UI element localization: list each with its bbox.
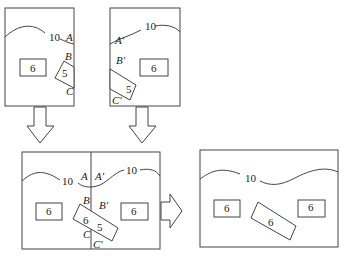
point-a: A — [80, 170, 88, 182]
point-c-prime: C' — [93, 238, 103, 250]
tilted-block-label: 6 — [268, 216, 274, 228]
contour-label: 10 — [245, 172, 257, 184]
point-c: C — [83, 228, 91, 240]
down-arrow-left-icon — [27, 107, 54, 143]
tilted-left-label: 6 — [83, 214, 89, 226]
down-arrow-right-icon — [129, 107, 156, 143]
block-left-label: 6 — [46, 205, 52, 217]
contour-label: 10 — [49, 31, 61, 43]
tilted-block-label: 5 — [62, 67, 68, 79]
right-arrow-icon — [161, 194, 182, 228]
contour-right-label: 10 — [126, 164, 138, 176]
panel-bottom-merged: 10 10 A A' B B' C C' 6 6 6 5 — [22, 152, 160, 250]
panel-bottom-result: 10 6 6 6 — [200, 150, 338, 247]
block-right-label: 6 — [308, 201, 314, 213]
tilted-block-label: 5 — [126, 83, 132, 95]
block-left-label: 6 — [224, 202, 230, 214]
point-b-prime: B' — [116, 54, 126, 66]
block-label: 6 — [30, 62, 36, 74]
panel-top-right: 10 A' B' C' 6 5 — [110, 8, 180, 106]
contour-left-label: 10 — [62, 175, 74, 187]
point-b-prime: B' — [99, 199, 109, 211]
map-merge-diagram: 10 A B C 6 5 10 A' B' C' 6 5 10 10 A A' … — [0, 0, 342, 257]
point-b: B — [83, 194, 90, 206]
panel-top-left: 10 A B C 6 5 — [5, 8, 74, 106]
point-a-prime: A' — [94, 170, 105, 182]
contour-label: 10 — [145, 20, 157, 32]
tilted-right-label: 5 — [97, 221, 103, 233]
point-a: A — [65, 31, 73, 43]
block-right-label: 6 — [131, 205, 137, 217]
point-b: B — [65, 50, 72, 62]
block-label: 6 — [151, 62, 157, 74]
point-a-prime: A' — [114, 34, 125, 46]
point-c-prime: C' — [112, 94, 122, 106]
